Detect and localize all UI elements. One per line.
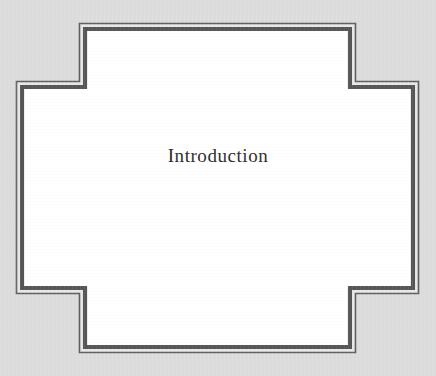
decorative-cross-frame — [0, 0, 436, 376]
chapter-divider-page: Introduction — [0, 0, 436, 376]
